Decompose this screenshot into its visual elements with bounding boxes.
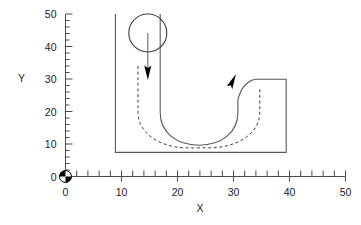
y-tick-label: 40 [45, 41, 57, 53]
y-axis-tick-labels: 01020304050 [45, 8, 57, 183]
y-axis-ticks [66, 14, 73, 177]
y-tick-label: 30 [45, 73, 57, 85]
x-axis: 01020304050 X [63, 171, 352, 215]
x-tick-label: 20 [172, 186, 184, 198]
centerline-path [138, 66, 260, 148]
outlet-arrow-group [227, 74, 236, 89]
origin-centroid-marker [60, 171, 72, 183]
y-tick-label: 0 [51, 171, 57, 183]
y-tick-label: 20 [45, 106, 57, 118]
inlet-marker-group [129, 14, 167, 80]
x-axis-title: X [196, 202, 203, 214]
y-axis: 01020304050 Y [18, 8, 73, 183]
outlet-arrow-head-icon [227, 74, 236, 89]
x-axis-tick-labels: 01020304050 [63, 186, 352, 198]
outer-wall-path [115, 14, 286, 152]
y-tick-label: 50 [45, 8, 57, 20]
y-axis-title: Y [18, 72, 25, 84]
channel-geometry [115, 14, 286, 152]
inner-wall-path [160, 14, 255, 145]
plot-area: 01020304050 Y 01020304050 X [0, 0, 361, 225]
x-tick-label: 10 [116, 186, 128, 198]
x-tick-label: 40 [284, 186, 296, 198]
figure-canvas: 01020304050 Y 01020304050 X [0, 0, 361, 225]
x-tick-label: 30 [228, 186, 240, 198]
y-tick-label: 10 [45, 138, 57, 150]
x-tick-label: 50 [340, 186, 352, 198]
x-tick-label: 0 [63, 186, 69, 198]
